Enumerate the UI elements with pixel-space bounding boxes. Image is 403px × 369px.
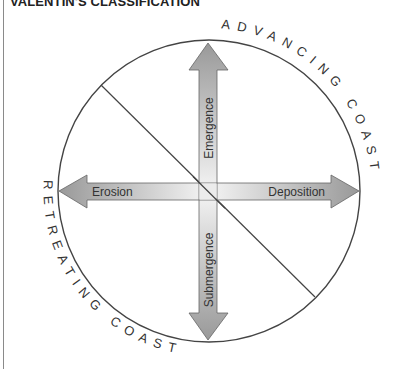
arrow-deposition: Deposition bbox=[217, 175, 359, 208]
label-deposition: Deposition bbox=[268, 185, 325, 199]
arrow-erosion: Erosion bbox=[59, 175, 199, 208]
label-emergence: Emergence bbox=[202, 97, 216, 159]
label-erosion: Erosion bbox=[92, 185, 133, 199]
arrow-emergence: Emergence bbox=[189, 43, 228, 183]
arrow-submergence: Submergence bbox=[189, 200, 228, 340]
label-submergence: Submergence bbox=[202, 232, 216, 307]
classification-diagram: Emergence Submergence Erosion Deposition… bbox=[0, 0, 403, 369]
label-retreating-coast: RETREATING COAST bbox=[41, 180, 185, 357]
label-advancing-coast: ADVANCING COAST bbox=[221, 16, 384, 177]
